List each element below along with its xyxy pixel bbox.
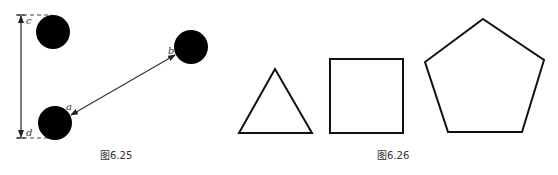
pentagon-shape <box>425 19 544 132</box>
caption-figure-6-25: 图6.25 <box>100 150 132 161</box>
label-c: c <box>26 15 32 26</box>
diagonal-distance-arrow <box>71 55 175 115</box>
triangle-shape <box>239 69 312 133</box>
label-b: b <box>168 45 174 56</box>
figure-canvas: c d a b 图6.25 图6.26 <box>0 0 558 175</box>
square-shape <box>330 59 403 133</box>
caption-figure-6-26: 图6.26 <box>377 150 409 161</box>
label-d: d <box>26 127 32 138</box>
top-left-circle <box>36 15 70 49</box>
right-circle <box>174 30 208 64</box>
figure-6-25: c d a b 图6.25 <box>16 15 208 161</box>
label-a: a <box>66 101 72 112</box>
figure-6-26 <box>239 19 544 133</box>
